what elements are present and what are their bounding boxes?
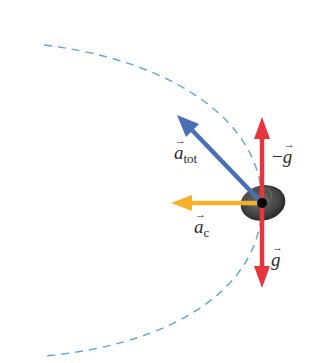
trajectory-path — [44, 45, 262, 356]
a-tot-label: atot — [174, 143, 197, 165]
a-c-subscript: c — [204, 225, 210, 240]
a-c-symbol: a — [194, 217, 204, 236]
center-dot — [257, 198, 267, 208]
neg-g-label: −g — [272, 147, 292, 166]
a-c-label: ac — [194, 217, 209, 239]
neg-g-symbol: g — [283, 147, 293, 166]
g-symbol: g — [271, 250, 281, 269]
minus-sign: − — [272, 146, 283, 167]
g-label: g — [271, 250, 281, 269]
a-tot-subscript: tot — [184, 151, 198, 166]
a-tot-symbol: a — [174, 143, 184, 162]
acceleration-diagram — [0, 0, 318, 363]
